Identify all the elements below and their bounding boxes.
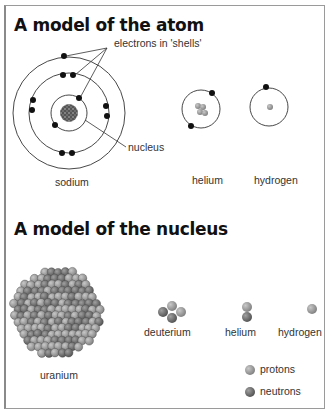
sodium-nucleus <box>60 104 78 122</box>
helium-nucleus <box>242 302 252 322</box>
sodium-label: sodium <box>55 176 89 188</box>
nucleus-callout-label: nucleus <box>128 141 164 153</box>
hydrogen-atom <box>250 84 288 126</box>
hydrogen-nucleus-label: hydrogen <box>278 326 322 338</box>
nucleus-section-title: A model of the nucleus <box>14 219 228 239</box>
legend-proton-icon <box>245 365 255 375</box>
uranium-label: uranium <box>40 369 78 381</box>
legend-neutrons-label: neutrons <box>260 385 301 397</box>
hydrogen-atom-label: hydrogen <box>254 174 298 186</box>
deuterium-label: deuterium <box>144 326 191 338</box>
hydrogen-nucleus <box>307 304 317 314</box>
deuterium-nucleus <box>158 301 186 323</box>
helium-nucleus-label: helium <box>225 326 256 338</box>
legend-protons-label: protons <box>260 363 295 375</box>
uranium-nucleus <box>10 267 105 357</box>
atom-diagrams <box>0 0 332 415</box>
electrons-callout-label: electrons in 'shells' <box>114 37 201 49</box>
helium-atom <box>182 90 220 129</box>
legend-neutron-icon <box>245 387 255 397</box>
helium-atom-label: helium <box>192 174 223 186</box>
sodium-atom <box>13 48 126 169</box>
nucleus-callout-line <box>85 120 126 147</box>
